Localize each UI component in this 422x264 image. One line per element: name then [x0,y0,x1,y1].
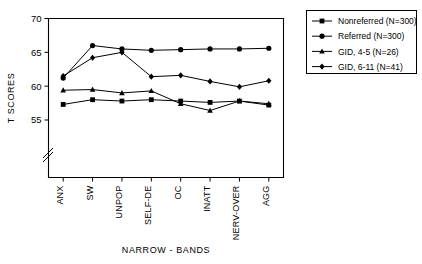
data-point [61,102,66,107]
y-axis-tick-labels: 55606570 [31,13,42,126]
y-tick-label: 70 [31,13,42,24]
legend-item-label: GID, 4-5 (N=26) [338,47,399,57]
data-point [178,72,183,78]
data-point [90,55,95,61]
legend-item-0[interactable]: Nonreferred (N=300) [312,16,417,26]
series-1 [61,43,272,81]
x-category-label: ANX [55,186,65,205]
y-tick-label: 55 [31,114,42,125]
data-point [237,46,242,51]
data-point [90,43,95,48]
series-3 [60,49,271,90]
y-axis-ticks [45,19,49,121]
legend-item-label: GID, 6-11 (N=41) [338,62,403,72]
x-axis-ticks [63,178,269,182]
legend-item-1[interactable]: Referred (N=300) [312,31,405,41]
y-tick-label: 60 [31,81,42,92]
plot-axes [43,18,284,178]
data-point [149,97,154,102]
data-point [178,47,183,52]
data-point [207,78,212,84]
data-point [149,48,154,53]
x-category-label: INATT [202,185,212,212]
x-axis-title: NARROW - BANDS [122,245,210,255]
data-point [208,100,213,105]
legend-marker-square-icon [320,19,325,24]
data-point [266,46,271,51]
data-point [266,78,271,84]
y-axis-title: T SCORES [6,73,16,124]
x-category-label: AGG [261,186,271,207]
data-point [90,97,95,102]
legend-item-label: Referred (N=300) [338,31,405,41]
x-category-label: SW [85,185,95,200]
data-series-layer [60,43,271,113]
legend-item-label: Nonreferred (N=300) [338,16,417,26]
legend-marker-diamond-icon [319,64,324,70]
legend-item-3[interactable]: GID, 6-11 (N=41) [312,62,403,72]
legend-marker-circle-icon [319,34,324,39]
data-point [149,88,155,93]
x-category-label: NERV-OVER [231,185,241,240]
chart-legend: Nonreferred (N=300)Referred (N=300)GID, … [307,11,417,74]
x-category-label: OC [173,185,183,199]
t-scores-line-chart: 55606570 ANXSWUNPOPSELF-DEOCINATTNERV-OV… [0,0,422,264]
x-category-label: UNPOP [114,186,124,219]
x-category-label: SELF-DE [143,186,153,225]
legend-item-2[interactable]: GID, 4-5 (N=26) [312,47,399,57]
data-point [120,99,125,104]
y-tick-label: 65 [31,47,42,58]
data-point [207,46,212,51]
chart-figure: 55606570 ANXSWUNPOPSELF-DEOCINATTNERV-OV… [0,0,422,264]
data-point [237,84,242,90]
legend-entries: Nonreferred (N=300)Referred (N=300)GID, … [312,16,417,72]
x-axis-category-labels: ANXSWUNPOPSELF-DEOCINATTNERV-OVERAGG [55,185,271,240]
